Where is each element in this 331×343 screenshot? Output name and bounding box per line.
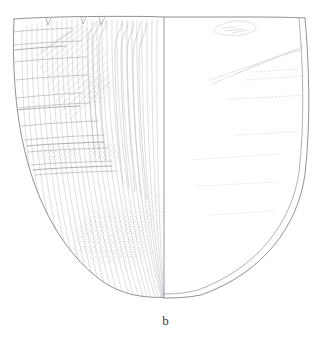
pottery-figure: b bbox=[0, 0, 331, 343]
chip-mark-top bbox=[214, 21, 256, 36]
faint-dotted-lines bbox=[227, 69, 306, 135]
stipple-patch-mid-left bbox=[34, 143, 82, 167]
stipple-patches bbox=[34, 73, 172, 271]
rim-notches bbox=[46, 17, 105, 25]
vessel-drawing bbox=[0, 0, 331, 343]
stipple-patch-upper bbox=[77, 73, 117, 107]
figure-caption-label: b bbox=[0, 313, 331, 329]
stipple-patch-mid-right bbox=[83, 138, 123, 166]
stipple-patch-lower-right bbox=[138, 187, 172, 233]
inner-wall-line bbox=[164, 18, 303, 294]
faint-interior-shading bbox=[190, 154, 280, 215]
rim-line bbox=[14, 16, 305, 19]
section-interior-view bbox=[164, 18, 306, 294]
right-outer-profile bbox=[164, 18, 309, 298]
faint-diagonal-marks bbox=[210, 47, 303, 84]
exterior-surface-view bbox=[14, 20, 172, 297]
